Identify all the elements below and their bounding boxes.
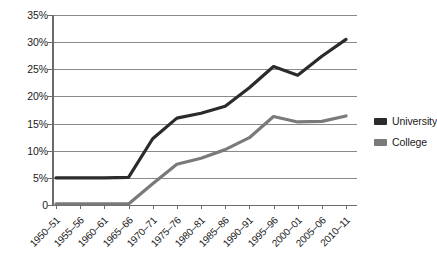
- line-chart: 35%30%25%20%15%10%5%0 1950–511955–561960…: [0, 0, 437, 254]
- y-tick-mark: [47, 15, 52, 16]
- y-tick-mark: [47, 69, 52, 70]
- x-tick-mark: [322, 205, 323, 209]
- x-tick-mark: [298, 205, 299, 209]
- y-tick-mark: [47, 205, 52, 206]
- x-tick-mark: [249, 205, 250, 209]
- legend-swatch-university: [374, 118, 387, 125]
- legend-label-university: University: [392, 115, 437, 127]
- y-tick-mark: [47, 151, 52, 152]
- legend-item-college[interactable]: College: [374, 136, 437, 148]
- x-tick-mark: [153, 205, 154, 209]
- legend-swatch-college: [374, 139, 387, 146]
- x-tick-mark: [129, 205, 130, 209]
- x-tick-mark: [80, 205, 81, 209]
- x-tick-mark: [274, 205, 275, 209]
- x-tick-mark: [104, 205, 105, 209]
- y-tick-mark: [47, 178, 52, 179]
- x-tick-mark: [346, 205, 347, 209]
- y-tick-mark: [47, 96, 52, 97]
- y-tick-mark: [47, 124, 52, 125]
- chart-legend: University College: [374, 115, 437, 148]
- legend-label-college: College: [392, 136, 427, 148]
- x-tick-mark: [201, 205, 202, 209]
- x-tick-mark: [177, 205, 178, 209]
- x-tick-mark: [56, 205, 57, 209]
- y-tick-mark: [47, 42, 52, 43]
- legend-item-university[interactable]: University: [374, 115, 437, 127]
- data-series: [0, 0, 437, 254]
- x-tick-mark: [225, 205, 226, 209]
- series-line-college: [56, 116, 346, 204]
